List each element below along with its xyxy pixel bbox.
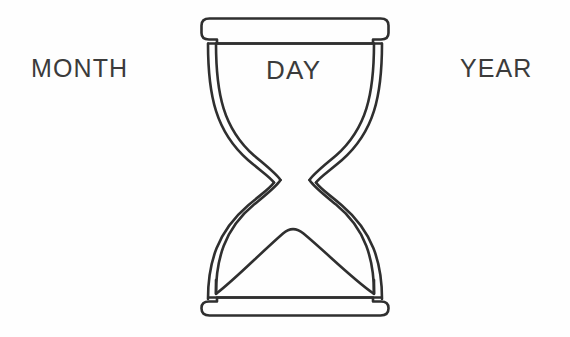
label-day: DAY <box>266 57 321 83</box>
label-year: YEAR <box>460 56 532 81</box>
waist-outer <box>208 183 382 300</box>
label-month: MONTH <box>31 56 128 81</box>
illustration-canvas: MONTH <box>0 0 570 337</box>
sand-mound <box>217 229 374 293</box>
bottom-cap-outer <box>202 298 389 316</box>
top-cap-outer <box>202 19 389 44</box>
